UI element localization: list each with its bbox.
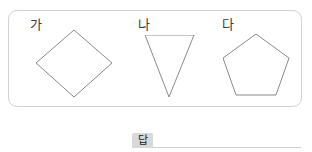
answer-row: 답 bbox=[132, 133, 302, 149]
pentagon-polygon bbox=[223, 34, 289, 95]
rhombus-shape-icon bbox=[36, 30, 114, 99]
shape-cell-rhombus: 가 bbox=[17, 11, 125, 106]
shape-label-pentagon: 다 bbox=[222, 18, 234, 31]
inverted-triangle-shape-icon bbox=[145, 35, 196, 99]
rhombus-polygon bbox=[36, 30, 112, 97]
pentagon-shape-icon bbox=[223, 34, 291, 97]
shape-cell-inverted-triangle: 나 bbox=[125, 11, 210, 106]
answer-badge: 답 bbox=[132, 133, 153, 148]
triangle-polygon bbox=[145, 35, 194, 97]
shape-cell-pentagon: 다 bbox=[210, 11, 303, 106]
figure-panel: 가 나 다 bbox=[8, 10, 302, 107]
shape-label-inverted-triangle: 나 bbox=[138, 18, 150, 31]
answer-input-line[interactable] bbox=[152, 147, 301, 148]
